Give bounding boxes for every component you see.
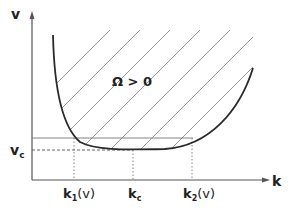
x-axis-label: k bbox=[272, 173, 282, 189]
kc-label: kc bbox=[128, 186, 142, 203]
region-label: Ω > 0 bbox=[112, 74, 152, 89]
y-axis-label: v bbox=[11, 6, 20, 22]
y-axis-arrow-icon bbox=[30, 11, 35, 19]
boundary-curve bbox=[53, 35, 253, 149]
k1-label: k1(v) bbox=[63, 186, 95, 203]
k2-label: k2(v) bbox=[183, 186, 215, 203]
x-axis-arrow-icon bbox=[262, 178, 270, 183]
axes bbox=[32, 15, 266, 180]
dispersion-diagram: v k Ω > 0 vc k1(v) kc k2(v) bbox=[0, 0, 290, 210]
vc-label: vc bbox=[10, 142, 24, 160]
